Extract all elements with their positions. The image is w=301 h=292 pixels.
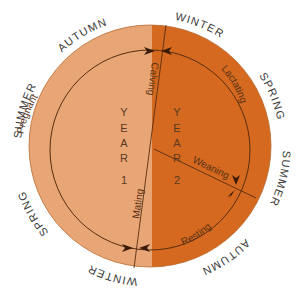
svg-text:A: A: [173, 137, 181, 149]
year1-half: [20, 20, 152, 280]
season-label: SUMMER: [268, 150, 293, 208]
svg-text:R: R: [173, 152, 181, 164]
svg-text:R: R: [120, 152, 128, 164]
svg-text:2: 2: [174, 174, 180, 186]
svg-text:E: E: [120, 122, 127, 134]
svg-text:Y: Y: [173, 106, 181, 118]
svg-text:A: A: [120, 137, 128, 149]
season-label: WINTER: [85, 263, 138, 289]
svg-text:1: 1: [121, 174, 127, 186]
breeding-cycle-diagram: SUMMER AUTUMN WINTER SPRING SUMMER AUTUM…: [0, 0, 301, 292]
svg-text:Y: Y: [120, 106, 128, 118]
svg-text:E: E: [173, 122, 180, 134]
year2-half: [152, 20, 282, 280]
